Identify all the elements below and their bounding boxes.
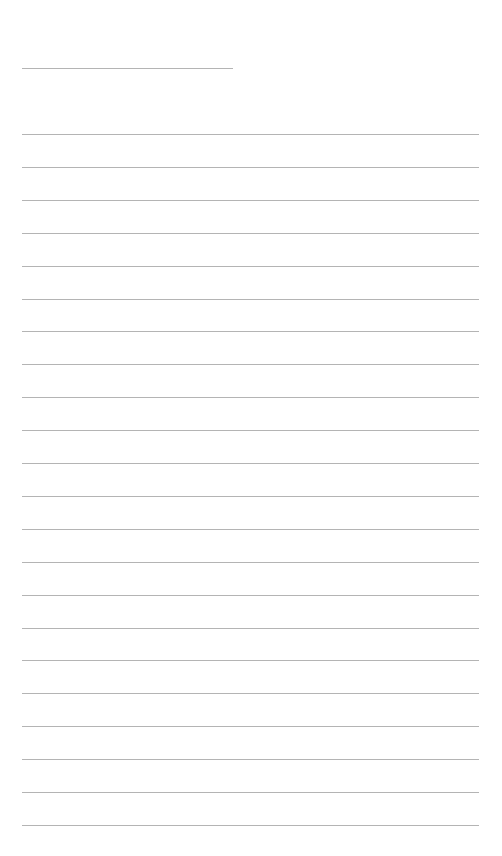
ruled-line	[22, 167, 479, 168]
ruled-line	[22, 628, 479, 629]
ruled-line	[22, 759, 479, 760]
ruled-line	[22, 792, 479, 793]
ruled-line	[22, 364, 479, 365]
ruled-line	[22, 693, 479, 694]
ruled-line	[22, 266, 479, 267]
ruled-line	[22, 200, 479, 201]
ruled-line	[22, 825, 479, 826]
ruled-line	[22, 134, 479, 135]
ruled-line	[22, 726, 479, 727]
ruled-line	[22, 660, 479, 661]
ruled-line	[22, 463, 479, 464]
header-write-line	[22, 68, 233, 69]
ruled-line	[22, 299, 479, 300]
ruled-line	[22, 233, 479, 234]
ruled-line	[22, 595, 479, 596]
ruled-line	[22, 562, 479, 563]
ruled-line	[22, 496, 479, 497]
ruled-line	[22, 529, 479, 530]
ruled-line	[22, 430, 479, 431]
lined-paper-page	[0, 0, 502, 856]
ruled-line	[22, 331, 479, 332]
ruled-line	[22, 397, 479, 398]
